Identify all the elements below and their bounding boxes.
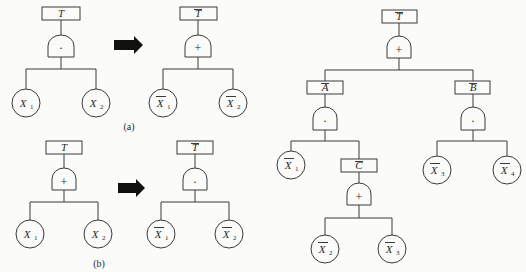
diagram-b-original: T + X 1 X 2 <box>16 141 112 248</box>
svg-text:2: 2 <box>329 249 333 257</box>
svg-text:X: X <box>23 228 32 240</box>
intermediate-event-a-label: A <box>321 81 329 93</box>
gate-symbol: + <box>61 175 68 189</box>
gate-symbol: · <box>471 114 475 128</box>
svg-text:X: X <box>226 97 235 109</box>
svg-text:1: 1 <box>165 234 169 242</box>
top-event-label: T <box>195 7 202 19</box>
svg-text:1: 1 <box>167 103 171 111</box>
svg-text:X: X <box>156 97 165 109</box>
svg-text:X: X <box>385 243 394 255</box>
diagram-b-dual: T · X 1 X 2 <box>147 141 243 248</box>
gate-symbol: · <box>193 175 197 189</box>
top-event-label: T <box>58 7 65 19</box>
caption-b: (b) <box>93 258 105 270</box>
gate-symbol: · <box>323 114 327 128</box>
svg-text:X: X <box>500 164 509 176</box>
gate-symbol: + <box>356 190 363 204</box>
success-tree: T + A · X 1 C + X <box>277 10 521 263</box>
gate-symbol: + <box>396 43 403 57</box>
fault-tree-figure: T · X 1 X 2 T + X 1 X 2 (a) <box>0 0 526 272</box>
svg-text:X: X <box>91 228 100 240</box>
svg-text:2: 2 <box>100 103 104 111</box>
svg-text:1: 1 <box>30 103 34 111</box>
intermediate-event-c-label: C <box>355 159 363 171</box>
top-event-label: T <box>396 10 403 22</box>
svg-text:3: 3 <box>396 249 400 257</box>
gate-symbol: + <box>195 41 202 55</box>
top-event-label: T <box>61 141 68 153</box>
top-event-label: T <box>192 141 199 153</box>
svg-text:1: 1 <box>34 234 38 242</box>
svg-text:3: 3 <box>441 170 445 178</box>
caption-a: (a) <box>123 121 134 133</box>
right-arrow-icon <box>118 179 145 197</box>
diagram-a-original: T · X 1 X 2 <box>12 7 110 117</box>
svg-text:X: X <box>154 228 163 240</box>
svg-text:2: 2 <box>237 103 241 111</box>
svg-text:X: X <box>430 164 439 176</box>
svg-text:X: X <box>222 228 231 240</box>
intermediate-event-b-label: B <box>470 81 477 93</box>
svg-text:2: 2 <box>233 234 237 242</box>
right-arrow-icon <box>114 36 143 54</box>
svg-text:X: X <box>19 97 28 109</box>
diagram-a-dual: T + X 1 X 2 <box>149 7 247 117</box>
svg-text:2: 2 <box>102 234 106 242</box>
svg-text:X: X <box>284 159 293 171</box>
svg-text:X: X <box>318 243 327 255</box>
svg-text:1: 1 <box>295 165 299 173</box>
gate-symbol: · <box>59 41 63 55</box>
svg-text:X: X <box>89 97 98 109</box>
svg-text:4: 4 <box>511 170 515 178</box>
